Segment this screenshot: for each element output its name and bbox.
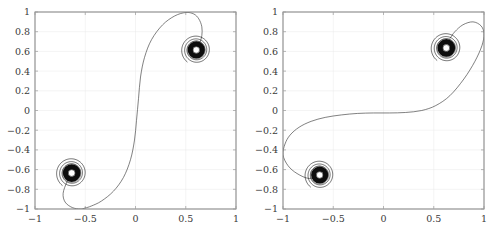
right-chart-ytick-label: 0.6 <box>263 46 278 57</box>
right-chart-ytick-label: −0.6 <box>255 164 278 175</box>
right-chart-ytick-label: 0.4 <box>263 66 278 77</box>
right-chart-ytick-label: −0.2 <box>255 125 278 136</box>
right-chart-xtick-label: −1 <box>276 213 290 224</box>
left-chart-ytick-label: 1 <box>24 6 30 17</box>
right-chart-ytick-label: −0.8 <box>255 184 278 195</box>
right-chart-ytick-label: 0.2 <box>263 85 278 96</box>
right-chart-xtick-label: 0 <box>380 213 386 224</box>
left-chart-ytick-label: −0.4 <box>7 144 30 155</box>
chart-panel-right: −1−0.8−0.6−0.4−0.200.20.40.60.81−1−0.500… <box>248 0 496 232</box>
left-chart-xtick-label: 0 <box>132 213 138 224</box>
left-chart-ytick-label: −0.2 <box>7 125 30 136</box>
figure-root: −1−0.8−0.6−0.4−0.200.20.40.60.81−1−0.500… <box>0 0 496 232</box>
right-chart-ytick-label: 0 <box>272 105 278 116</box>
chart-panel-left: −1−0.8−0.6−0.4−0.200.20.40.60.81−1−0.500… <box>0 0 248 232</box>
left-chart-ytick-label: 0.6 <box>15 46 30 57</box>
right-chart-ytick-label: −0.4 <box>255 144 278 155</box>
left-chart-xtick-label: 1 <box>233 213 239 224</box>
left-chart-ytick-label: −0.8 <box>7 184 30 195</box>
left-chart-svg: −1−0.8−0.6−0.4−0.200.20.40.60.81−1−0.500… <box>0 0 248 232</box>
right-chart-svg: −1−0.8−0.6−0.4−0.200.20.40.60.81−1−0.500… <box>248 0 496 232</box>
left-chart-ytick-label: 0.2 <box>15 85 30 96</box>
right-chart-xtick-label: −0.5 <box>322 213 345 224</box>
right-chart-xtick-label: 0.5 <box>426 213 441 224</box>
left-chart-xtick-label: −0.5 <box>74 213 97 224</box>
left-chart-ytick-label: 0.8 <box>15 26 30 37</box>
left-chart-xtick-label: 0.5 <box>178 213 193 224</box>
right-chart-ytick-label: 0.8 <box>263 26 278 37</box>
right-chart-ytick-label: 1 <box>272 6 278 17</box>
left-chart-ytick-label: 0.4 <box>15 66 30 77</box>
left-chart-xtick-label: −1 <box>28 213 42 224</box>
left-chart-ytick-label: −0.6 <box>7 164 30 175</box>
left-chart-ytick-label: 0 <box>24 105 30 116</box>
right-chart-xtick-label: 1 <box>481 213 487 224</box>
